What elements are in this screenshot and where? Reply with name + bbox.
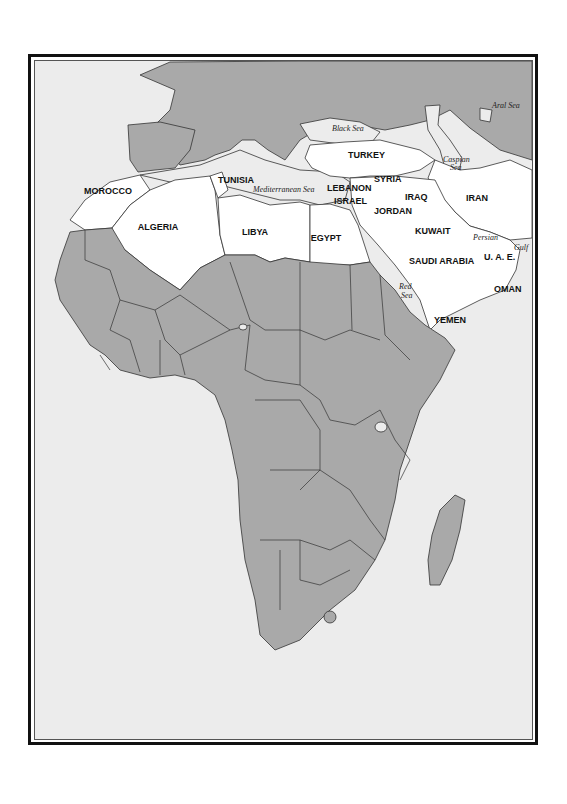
lake-victoria xyxy=(375,422,387,432)
label-algeria: ALGERIA xyxy=(138,222,179,232)
label-red-sea: Sea xyxy=(401,291,413,300)
label-morocco: MOROCCO xyxy=(84,186,132,196)
sub-saharan-africa xyxy=(55,228,455,650)
africa-middle-east-map: MOROCCO TUNISIA ALGERIA LIBYA EGYPT TURK… xyxy=(0,0,567,804)
label-uae: U. A. E. xyxy=(484,252,515,262)
label-israel: ISRAEL xyxy=(334,196,368,206)
aral-sea xyxy=(480,108,492,122)
label-libya: LIBYA xyxy=(242,227,269,237)
label-egypt: EGYPT xyxy=(311,233,342,243)
label-kuwait: KUWAIT xyxy=(415,226,451,236)
label-mediterranean-sea: Mediterranean Sea xyxy=(252,185,315,194)
lake-chad xyxy=(239,324,247,330)
label-caspian-sea: Sea xyxy=(450,163,462,172)
label-yemen: YEMEN xyxy=(434,315,466,325)
label-gulf: Gulf xyxy=(514,243,530,252)
label-persian: Persian xyxy=(472,233,498,242)
lesotho xyxy=(324,611,336,623)
label-black-sea: Black Sea xyxy=(332,124,364,133)
label-iran: IRAN xyxy=(466,193,488,203)
label-jordan: JORDAN xyxy=(374,206,412,216)
label-aral-sea: Aral Sea xyxy=(491,101,520,110)
label-iraq: IRAQ xyxy=(405,192,428,202)
label-tunisia: TUNISIA xyxy=(218,175,255,185)
label-turkey: TURKEY xyxy=(348,150,385,160)
madagascar xyxy=(428,495,465,585)
label-saudi-arabia: SAUDI ARABIA xyxy=(409,256,475,266)
label-lebanon: LEBANON xyxy=(327,183,372,193)
label-oman: OMAN xyxy=(494,284,522,294)
iberia xyxy=(128,122,195,172)
label-syria: SYRIA xyxy=(374,174,402,184)
label-red: Red xyxy=(398,282,412,291)
